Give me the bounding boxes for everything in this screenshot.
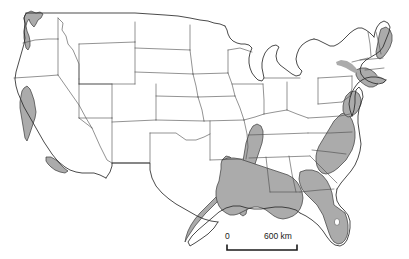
scale-bar-labels: 0 600 km [224, 231, 310, 243]
us-map-figure: 0 600 km [0, 0, 409, 259]
lake-okeechobee [334, 219, 339, 226]
scale-bar-bracket [227, 245, 297, 251]
scale-end-label: 600 km [264, 231, 292, 241]
scale-bar-graphic [226, 244, 298, 251]
scale-start-label: 0 [225, 231, 230, 241]
us-map-svg [0, 0, 409, 259]
map-scale-bar: 0 600 km [224, 231, 310, 255]
